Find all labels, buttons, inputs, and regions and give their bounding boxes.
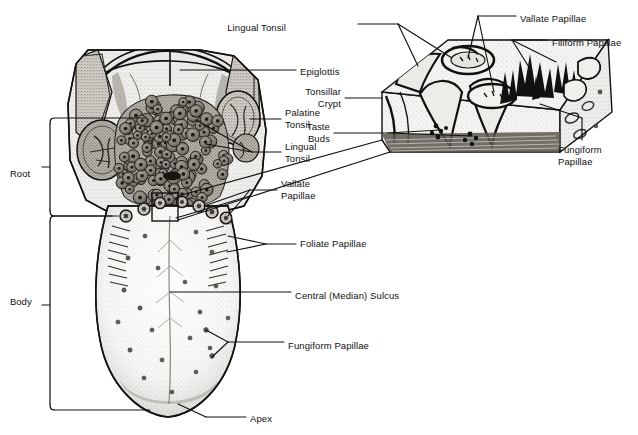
bracket-label-root: Root xyxy=(10,168,30,179)
vallate-papilla-inset-a xyxy=(442,46,494,74)
label-fungiform-papillae-main: Fungiform Papillae xyxy=(288,340,369,352)
label-epiglottis: Epiglottis xyxy=(300,66,340,78)
tongue-body-illustration xyxy=(96,206,240,417)
label-foliate-papillae: Foliate Papillae xyxy=(300,238,367,250)
label-vallate-papillae-main: Vallate Papillae xyxy=(281,178,316,201)
body-bracket-top xyxy=(50,216,112,222)
label-central-median-sulcus: Central (Median) Sulcus xyxy=(295,290,399,302)
tongue-root-illustration xyxy=(68,46,266,214)
bracket-label-body: Body xyxy=(10,296,32,307)
label-lingual-tonsil-inset: Lingual Tonsil xyxy=(227,22,286,34)
histology-block-inset xyxy=(382,40,612,152)
label-tonsillar-crypt: Tonsillar Crypt xyxy=(305,86,341,109)
label-lingual-tonsil-main: Lingual Tonsil xyxy=(285,141,316,164)
label-vallate-papillae-inset: Vallate Papillae xyxy=(520,13,586,25)
body-bracket-bottom xyxy=(50,404,150,410)
label-apex: Apex xyxy=(250,413,272,425)
label-fungiform-papillae-inset: Fungiform Papillae xyxy=(558,144,602,167)
lingual-tonsil-mass xyxy=(114,95,233,212)
label-taste-buds: Taste Buds xyxy=(307,121,330,144)
label-filiform-papillae: Filiform Papillae xyxy=(552,37,621,49)
figure-canvas: Lingual TonsilVallate PapillaeFiliform P… xyxy=(0,0,638,435)
